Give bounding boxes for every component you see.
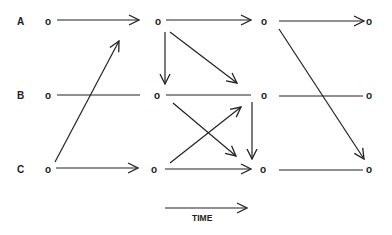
node-c0: o [45,164,51,175]
node-b2: o [261,90,267,101]
node-b0: o [45,90,51,101]
node-a0: o [45,16,51,27]
node-c1: o [151,164,157,175]
node-a2: o [261,16,267,27]
time-network-diagram: A B C o o o o o o o o o o o o TIME [0,0,392,235]
node-c3: o [366,164,372,175]
node-c2: o [260,164,266,175]
node-a1: o [155,16,161,27]
node-b3: o [366,90,372,101]
edge-a1-b2 [170,32,237,83]
node-a3: o [366,16,372,27]
edge-c0-a1 [55,41,119,162]
row-label-b: B [17,90,24,101]
edge-c1-b2 [170,107,241,163]
edge-a2-c3 [279,29,364,159]
node-b1: o [154,90,160,101]
edge-b1-c2 [173,103,236,156]
time-axis-label: TIME [192,213,213,223]
row-label-a: A [17,16,24,27]
row-label-c: C [17,164,24,175]
